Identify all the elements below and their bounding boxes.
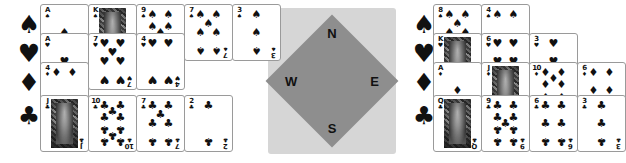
card-suit-pip-icon: ♣ [203,136,214,147]
card-corner-index: 3♠ [269,46,278,58]
card-suit-pip-icon: ♣ [540,118,551,129]
card-suit-pip-icon: ♣ [492,124,503,135]
card-suit-pip-icon: ♣ [540,136,551,147]
card-suit-pip-icon: ♥ [532,42,541,48]
card-pip-field: ♣♣♣♣♣♣♣ [148,99,173,148]
card-suit-pip-icon: ♣ [99,112,110,123]
card-suit-pip-icon: ♣ [187,104,196,110]
playing-card[interactable]: 7♥7♥♥♥♥♥♥♥♥ [88,33,137,90]
card-corner-index: 7♥ [125,75,134,87]
playing-card[interactable]: 4♥4♥♥♥♥♥ [136,33,185,90]
playing-card[interactable]: 3♣3♣♣♣♣ [577,95,626,152]
card-suit-pip-icon: ♣ [518,137,527,143]
card-suit-pip-icon: ♣ [556,136,567,147]
playing-card[interactable]: 3♠3♠♠♠♠ [232,4,281,61]
card-suit-pip-icon: ♣ [540,100,551,111]
card-corner-index: 2♣ [221,137,230,149]
card-suit-pip-icon: ♠ [269,46,278,52]
card-corner-index: 6♣ [566,137,575,149]
card-suit-pip-icon: ♣ [173,137,182,143]
card-pip-field: ♥♥♥♥ [148,37,173,86]
card-suit-pip-icon: ♦ [556,79,567,90]
playing-card[interactable]: 7♣7♣♣♣♣♣♣♣♣ [136,95,185,152]
card-corner-index: 3♠ [235,7,244,19]
playing-card[interactable]: 6♣6♣♣♣♣♣♣♣ [529,95,578,152]
card-pip-field: ♣♣♣♣♣♣♣♣♣ [493,99,518,148]
card-suit-pip-icon: ♥ [147,38,158,49]
card-suit-pip-icon: ♠ [492,9,503,20]
card-suit-pip-icon: ♠ [43,13,52,19]
playing-card[interactable]: Q♣Q♣ [433,95,482,152]
compass-rose: N E S W [268,8,396,154]
card-suit-pip-icon: ♠ [251,45,262,56]
card-suit-pip-icon: ♠ [195,45,206,56]
card-suit-pip-icon: ♣ [580,104,589,110]
card-pip-field: ♣♣♣♣♣♣♣♣♣♣ [100,99,125,148]
card-suit-pip-icon: ♣ [147,118,158,129]
card-suit-pip-icon: ♥ [99,74,110,85]
card-suit-pip-icon: ♣ [492,136,503,147]
card-suit-pip-icon: ♥ [173,75,182,81]
card-corner-index: A♦ [436,65,445,77]
card-suit-pip-icon: ♦ [604,67,615,78]
card-corner-index: 10♣ [125,137,134,149]
playing-card[interactable]: 10♣10♣♣♣♣♣♣♣♣♣♣♣ [88,95,137,152]
card-suit-pip-icon: ♣ [508,100,519,111]
card-corner-index: 3♥ [532,36,541,48]
compass-west-label: W [285,75,297,88]
card-pip-field: ♣♣♣♣♣♣ [541,99,566,148]
card-suit-pip-icon: ♣ [163,136,174,147]
card-suit-pip-icon: ♣ [147,136,158,147]
card-suit-pip-icon: ♣ [99,136,110,147]
card-suit-pip-icon: ♣ [508,136,519,147]
card-suit-pip-icon: ♠ [147,9,158,20]
card-suit-pip-icon: ♥ [99,56,110,67]
card-suit-pip-icon: ♥ [147,74,158,85]
card-suit-pip-icon: ♠ [163,9,174,20]
card-suit-pip-icon: ♦ [436,71,445,77]
card-suit-pip-icon: ♥ [115,74,126,85]
card-pip-field: ♣♣♣ [589,99,614,148]
card-suit-pip-icon: ♣ [492,100,503,111]
card-suit-pip-icon: ♣ [596,118,607,129]
card-pip-field: ♠♠♠♠♠♠♠ [196,8,221,57]
card-suit-pip-icon: ♥ [43,42,52,48]
card-suit-pip-icon: ♣ [596,136,607,147]
card-suit-pip-icon: ♥ [163,38,174,49]
card-pip-field: ♣♣ [196,99,221,148]
card-suit-pip-icon: ♠ [235,13,244,19]
card-suit-pip-icon: ♥ [508,38,519,49]
playing-card[interactable]: J♣J♣ [40,95,89,152]
card-suit-pip-icon: ♣ [77,137,86,143]
card-suit-pip-icon: ♦ [67,67,78,78]
card-corner-index: 3♣ [614,137,623,149]
playing-card[interactable]: 9♣9♣♣♣♣♣♣♣♣♣♣ [481,95,530,152]
card-suit-pip-icon: ♣ [614,137,623,143]
card-suit-pip-icon: ♣ [470,137,479,143]
card-corner-index: 4♥ [173,75,182,87]
compass-east-label: E [370,75,379,88]
card-corner-index: Q♣ [470,137,479,149]
card-suit-pip-icon: ♥ [163,74,174,85]
card-corner-index: A♥ [43,36,52,48]
court-card-artwork [51,99,78,148]
card-suit-pip-icon: ♣ [596,100,607,111]
card-suit-pip-icon: ♠ [211,27,222,38]
card-suit-pip-icon: ♣ [508,124,519,135]
playing-card[interactable]: 2♣2♣♣♣ [184,95,233,152]
compass-north-label: N [327,27,336,40]
card-suit-pip-icon: ♠ [221,46,230,52]
card-corner-index: 7♣ [173,137,182,149]
playing-card[interactable]: 7♠7♠♠♠♠♠♠♠♠ [184,4,233,61]
card-suit-pip-icon: ♣ [203,100,214,111]
card-suit-pip-icon: ♥ [492,38,503,49]
card-suit-pip-icon: ♥ [115,56,126,67]
card-pip-field: ♥♥♥♥♥♥♥ [100,37,125,86]
court-card-artwork [444,99,471,148]
card-suit-pip-icon: ♣ [556,118,567,129]
card-suit-pip-icon: ♦ [588,67,599,78]
card-corner-index: 3♣ [580,98,589,110]
card-suit-pip-icon: ♠ [508,9,519,20]
card-suit-pip-icon: ♦ [51,67,62,78]
compass-south-label: S [328,122,337,135]
